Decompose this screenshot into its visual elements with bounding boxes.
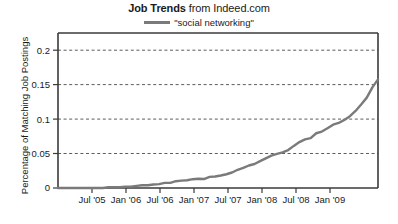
plot-svg: 0.2 0.15 0.1 0.05 0 Jul '05 Jan '06 — [0, 0, 398, 224]
ytick-label-0.15: 0.15 — [32, 79, 51, 90]
ytick-label-0.2: 0.2 — [37, 45, 50, 56]
xtick-label-jul07: Jul '07 — [214, 194, 241, 205]
ytick-label-0: 0 — [45, 182, 50, 193]
xtick-label-jan07: Jan '07 — [179, 194, 209, 205]
xtick-label-jul05: Jul '05 — [78, 194, 105, 205]
xtick-label-jul06: Jul '06 — [146, 194, 173, 205]
xtick-label-jan06: Jan '06 — [111, 194, 141, 205]
xtick-label-jul08: Jul '08 — [282, 194, 309, 205]
ytick-label-0.05: 0.05 — [32, 148, 51, 159]
xtick-label-jan08: Jan '08 — [247, 194, 277, 205]
x-axis-tick-labels: Jul '05 Jan '06 Jul '06 Jan '07 Jul '07 … — [78, 194, 345, 205]
plot-frame — [58, 33, 378, 188]
data-series-social-networking — [58, 79, 378, 188]
y-axis-tick-labels: 0.2 0.15 0.1 0.05 0 — [32, 45, 51, 194]
xtick-label-jan09: Jan '09 — [315, 194, 345, 205]
plot-area: 0.2 0.15 0.1 0.05 0 Jul '05 Jan '06 — [0, 0, 398, 224]
job-trends-chart: Job Trends from Indeed.com "social netwo… — [0, 0, 398, 224]
ytick-label-0.1: 0.1 — [37, 114, 50, 125]
gridlines — [58, 50, 378, 153]
